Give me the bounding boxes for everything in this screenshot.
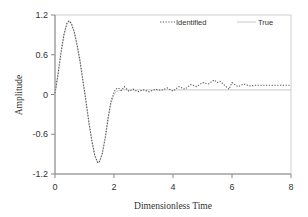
y-tick-label: -0.6 — [32, 129, 48, 139]
x-tick-label: 2 — [111, 182, 116, 192]
x-tick-label: 0 — [52, 182, 57, 192]
y-tick-label: 0.6 — [35, 50, 48, 60]
y-tick-label: -1.2 — [32, 169, 48, 179]
y-tick-label: 0 — [43, 90, 48, 100]
chart: 1.20.60-0.6-1.2 02468 Amplitude Dimensio… — [0, 0, 308, 217]
x-tick-label: 6 — [229, 182, 234, 192]
x-ticks: 02468 — [52, 174, 293, 192]
x-tick-label: 4 — [170, 182, 175, 192]
y-tick-label: 1.2 — [35, 10, 48, 20]
y-ticks: 1.20.60-0.6-1.2 — [32, 10, 55, 179]
x-axis-title: Dimensionless Time — [134, 201, 212, 211]
legend-true-label: True — [258, 18, 273, 27]
x-tick-label: 8 — [288, 182, 293, 192]
plot-area — [55, 15, 291, 174]
legend-identified-label: Identified — [176, 18, 206, 27]
y-axis-title: Amplitude — [14, 75, 24, 116]
